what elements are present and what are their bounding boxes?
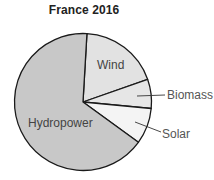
slice-label-wind: Wind — [97, 58, 124, 72]
pie-chart: Wind Hydropower Biomass Solar — [0, 0, 214, 180]
slice-label-biomass: Biomass — [167, 88, 213, 102]
pie-slices — [15, 33, 152, 170]
slice-label-solar: Solar — [162, 127, 190, 141]
slice-label-hydropower: Hydropower — [28, 116, 93, 130]
